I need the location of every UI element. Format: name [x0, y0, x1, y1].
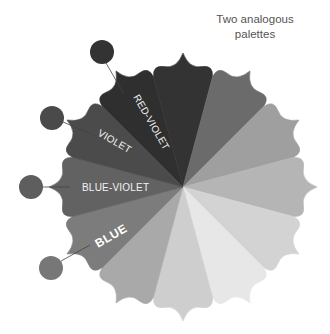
color-wheel: RED-VIOLET VIOLET BLUE-VIOLET BLUE	[0, 0, 330, 334]
swatch-red-violet	[90, 40, 114, 64]
swatch-blue	[39, 256, 63, 280]
swatch-blue-violet	[19, 175, 43, 199]
label-blue-violet: BLUE-VIOLET	[82, 182, 149, 193]
swatch-violet	[40, 106, 64, 130]
